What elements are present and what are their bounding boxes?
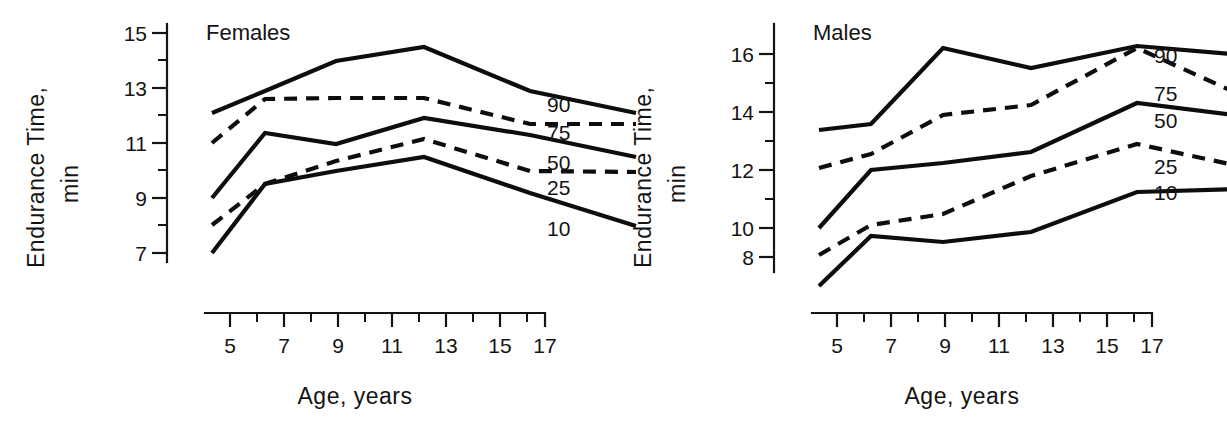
x-tick-label-13: 13 [1041, 334, 1064, 357]
series-label-50: 50 [547, 151, 570, 174]
series-label-10: 10 [1154, 181, 1177, 204]
series-label-25: 25 [1154, 155, 1177, 178]
x-axis-females: 5 7 9 11 13 15 17 [205, 313, 557, 357]
y-axis-ticks [759, 54, 774, 257]
y-tick-label-16: 16 [731, 43, 754, 66]
chart-svg-females: Endurance Time, min 15 13 1 [0, 0, 613, 427]
y-tick-label-8: 8 [742, 246, 754, 269]
x-axis-males: 5 7 9 11 13 15 17 [812, 313, 1164, 357]
y-axis-ticks [152, 33, 167, 253]
x-tick-label-7: 7 [885, 334, 897, 357]
x-tick-label-5: 5 [831, 334, 843, 357]
series-labels-males: 90 75 50 25 10 [1154, 44, 1177, 204]
y-axis-title-females: Endurance Time, min [23, 87, 83, 268]
y-axis-males: 16 14 12 10 8 [731, 24, 774, 272]
series-label-25: 25 [547, 176, 570, 199]
series-label-90: 90 [547, 93, 570, 116]
x-tick-label-13: 13 [434, 334, 457, 357]
x-tick-label-15: 15 [1095, 334, 1118, 357]
panel-title-males: Males [813, 20, 872, 45]
series-line-90 [212, 47, 636, 113]
chart-svg-males: Endurance Time, min 16 14 1 [613, 0, 1226, 427]
y-axis-title-line2: min [664, 164, 690, 203]
y-tick-label-7: 7 [135, 242, 147, 265]
x-tick-label-5: 5 [224, 334, 236, 357]
series-label-75: 75 [547, 121, 570, 144]
y-axis-title-males: Endurance Time, min [630, 87, 690, 268]
y-axis-females: 15 13 11 9 7 [124, 22, 167, 265]
chart-panel-females: Endurance Time, min 15 13 1 [0, 0, 613, 427]
x-tick-label-11: 11 [988, 334, 1010, 357]
series-label-90: 90 [1154, 44, 1177, 67]
x-tick-label-15: 15 [488, 334, 511, 357]
y-tick-label-13: 13 [124, 77, 147, 100]
x-axis-title-males: Age, years [905, 383, 1020, 409]
y-tick-label-9: 9 [135, 187, 147, 210]
panel-title-females: Females [206, 20, 290, 45]
y-tick-label-12: 12 [731, 159, 754, 182]
y-tick-label-10: 10 [731, 217, 754, 240]
chart-panel-males: Endurance Time, min 16 14 1 [613, 0, 1226, 427]
endurance-time-figure: Endurance Time, min 15 13 1 [0, 0, 1227, 427]
y-axis-title-line1: Endurance Time, [630, 87, 656, 268]
series-label-10: 10 [547, 217, 570, 240]
y-tick-label-15: 15 [124, 22, 147, 45]
x-tick-label-9: 9 [939, 334, 951, 357]
y-axis-title-line1: Endurance Time, [23, 87, 49, 268]
y-axis-title-line2: min [57, 164, 83, 203]
x-tick-label-9: 9 [332, 334, 344, 357]
y-tick-label-14: 14 [731, 101, 755, 124]
series-label-50: 50 [1154, 109, 1177, 132]
x-tick-label-7: 7 [278, 334, 290, 357]
x-axis-ticks [837, 313, 1152, 327]
y-tick-label-11: 11 [125, 132, 147, 155]
series-labels-females: 90 75 50 25 10 [547, 93, 570, 240]
x-tick-label-11: 11 [381, 334, 403, 357]
x-axis-title-females: Age, years [298, 383, 413, 409]
x-tick-label-17: 17 [533, 334, 556, 357]
x-tick-label-17: 17 [1140, 334, 1163, 357]
data-series-females [212, 47, 636, 253]
series-label-75: 75 [1154, 82, 1177, 105]
x-axis-ticks [230, 313, 545, 327]
